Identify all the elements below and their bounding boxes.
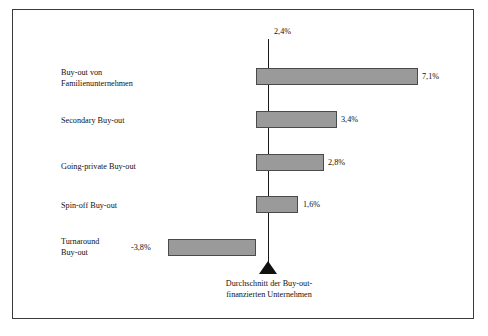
category-label-2: Going-private Buy-out xyxy=(61,161,191,172)
category-label-1: Secondary Buy-out xyxy=(61,115,191,126)
value-label-2: 2,8% xyxy=(328,158,345,167)
bar-0 xyxy=(256,68,418,85)
bar-2 xyxy=(256,154,324,171)
average-caption: Durchschnitt der Buy-out- finanzierten U… xyxy=(198,278,340,300)
average-value-label: 2,4% xyxy=(274,27,291,36)
value-label-1: 3,4% xyxy=(341,115,358,124)
value-label-4: -3,8% xyxy=(131,243,151,252)
chart-plot-area: 2,4% Durchschnitt der Buy-out- finanzier… xyxy=(13,10,473,318)
bar-1 xyxy=(256,111,337,128)
value-label-3: 1,6% xyxy=(303,200,320,209)
chart-frame: 2,4% Durchschnitt der Buy-out- finanzier… xyxy=(12,9,474,319)
average-marker-triangle xyxy=(259,261,277,274)
bar-4 xyxy=(168,239,256,256)
category-label-0: Buy-out von Familienunternehmen xyxy=(61,67,191,89)
value-label-0: 7,1% xyxy=(422,72,439,81)
bar-3 xyxy=(256,196,298,213)
category-label-3: Spin-off Buy-out xyxy=(61,200,191,211)
